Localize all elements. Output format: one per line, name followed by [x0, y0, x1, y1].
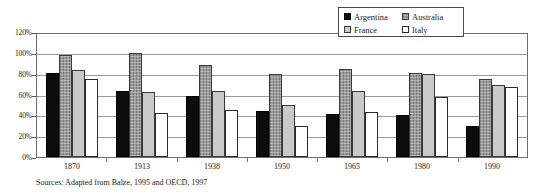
bar-italy-1913[interactable]: [155, 113, 168, 157]
bar-australia-1870[interactable]: [59, 55, 72, 158]
bar-italy-1980[interactable]: [435, 97, 448, 157]
y-axis-tick-label: 40%: [0, 112, 32, 120]
bar-australia-1938[interactable]: [199, 65, 212, 157]
legend-label-argentina: Argentina: [354, 12, 388, 22]
bar-argentina-1913[interactable]: [116, 91, 129, 157]
legend-label-france: France: [354, 25, 377, 35]
bar-argentina-1870[interactable]: [46, 73, 59, 157]
bar-france-1913[interactable]: [142, 92, 155, 157]
x-axis-tick-label: 1870: [37, 161, 107, 175]
legend-item-australia[interactable]: Australia: [402, 12, 460, 22]
x-axis-tick-mark: [247, 158, 248, 162]
x-axis-tick-label: 1965: [317, 161, 387, 175]
bar-australia-1913[interactable]: [129, 53, 142, 157]
bar-argentina-1938[interactable]: [186, 96, 199, 158]
bar-argentina-1980[interactable]: [396, 115, 409, 157]
x-axis-tick-label: 1950: [247, 161, 317, 175]
x-axis-tick-label: 1938: [177, 161, 247, 175]
bar-australia-1990[interactable]: [479, 79, 492, 157]
legend[interactable]: Argentina Australia France Italy: [338, 7, 464, 37]
bar-group: [107, 34, 177, 157]
legend-row-2: France Italy: [344, 23, 460, 36]
legend-row-1: Argentina Australia: [344, 10, 460, 23]
bar-australia-1965[interactable]: [339, 69, 352, 157]
x-axis-labels: 1870191319381950196519801990: [37, 161, 527, 175]
bar-argentina-1965[interactable]: [326, 114, 339, 157]
x-axis-tick-label: 1913: [107, 161, 177, 175]
bar-group: [317, 34, 387, 157]
bar-argentina-1990[interactable]: [466, 126, 479, 157]
legend-label-italy: Italy: [412, 25, 428, 35]
y-axis-tick-label: 80%: [0, 71, 32, 79]
bar-italy-1870[interactable]: [85, 79, 98, 157]
bar-france-1990[interactable]: [492, 85, 505, 157]
bar-italy-1950[interactable]: [295, 126, 308, 157]
x-axis-tick-mark: [458, 158, 459, 162]
bar-italy-1965[interactable]: [365, 112, 378, 157]
legend-item-france[interactable]: France: [344, 25, 402, 35]
bar-australia-1950[interactable]: [269, 74, 282, 157]
x-axis-tick-mark: [106, 158, 107, 162]
bar-group: [387, 34, 457, 157]
bar-group: [457, 34, 527, 157]
bar-france-1938[interactable]: [212, 91, 225, 157]
bar-group: [247, 34, 317, 157]
bar-france-1980[interactable]: [422, 74, 435, 157]
y-axis-tick-mark: [32, 158, 36, 159]
legend-swatch-argentina-icon: [344, 13, 351, 20]
bar-chart: 0%20%40%60%80%100%120% 18701913193819501…: [0, 0, 542, 196]
y-axis-tick-label: 60%: [0, 92, 32, 100]
legend-swatch-italy-icon: [402, 26, 409, 33]
bar-italy-1990[interactable]: [505, 87, 518, 157]
legend-label-australia: Australia: [412, 12, 443, 22]
x-axis-tick-mark: [387, 158, 388, 162]
bar-group: [37, 34, 107, 157]
bar-argentina-1950[interactable]: [256, 111, 269, 157]
legend-swatch-australia-icon: [402, 13, 409, 20]
legend-item-italy[interactable]: Italy: [402, 25, 460, 35]
bar-france-1965[interactable]: [352, 91, 365, 157]
bar-groups: [37, 34, 527, 157]
y-axis-tick-label: 100%: [0, 50, 32, 58]
y-axis-tick-label: 20%: [0, 133, 32, 141]
x-axis-tick-label: 1990: [457, 161, 527, 175]
legend-swatch-france-icon: [344, 26, 351, 33]
clipped-title-strip: [110, 0, 340, 5]
source-note: Sources: Adapted from Balze, 1995 and OE…: [36, 178, 207, 188]
bar-france-1870[interactable]: [72, 70, 85, 157]
y-axis-tick-label: 0%: [0, 154, 32, 162]
bar-italy-1938[interactable]: [225, 110, 238, 157]
y-axis-tick-label: 120%: [0, 29, 32, 37]
legend-item-argentina[interactable]: Argentina: [344, 12, 402, 22]
bar-australia-1980[interactable]: [409, 73, 422, 157]
bar-france-1950[interactable]: [282, 105, 295, 157]
bar-group: [177, 34, 247, 157]
x-axis-tick-mark: [317, 158, 318, 162]
x-axis-tick-mark: [177, 158, 178, 162]
x-axis-tick-label: 1980: [387, 161, 457, 175]
